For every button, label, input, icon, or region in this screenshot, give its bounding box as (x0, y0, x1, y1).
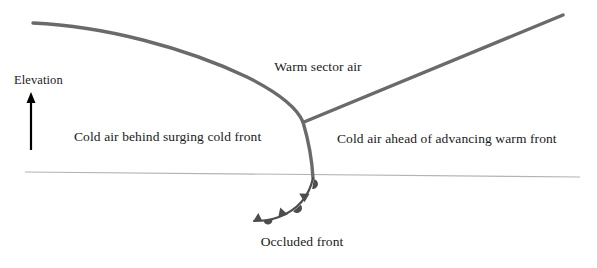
warm-front-semicircle (264, 220, 273, 225)
occluded-front-symbols (254, 179, 319, 225)
cold-front-triangle (254, 213, 263, 221)
cold-front-triangle (275, 206, 287, 218)
ground-line (25, 172, 580, 177)
label-occluded-front: Occluded front (261, 235, 344, 250)
label-cold-air-behind-surging-cold-front: Cold air behind surging cold front (74, 130, 261, 145)
label-cold-air-ahead-of-advancing-warm-front: Cold air ahead of advancing warm front (337, 132, 557, 147)
label-elevation: Elevation (14, 74, 63, 88)
label-warm-sector-air: Warm sector air (274, 60, 361, 75)
cold-front-curve (33, 23, 303, 122)
cold-front-lower-segment (303, 122, 313, 178)
occluded-front-diagram: Warm sector air Cold air behind surging … (0, 0, 597, 268)
elevation-arrow (27, 92, 36, 150)
